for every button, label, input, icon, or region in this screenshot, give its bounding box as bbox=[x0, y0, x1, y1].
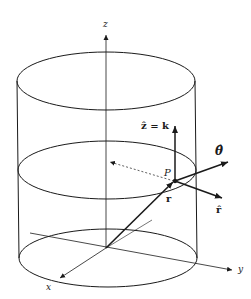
projection-line bbox=[106, 220, 152, 248]
y-axis-label: y bbox=[238, 265, 243, 274]
z-hat-equals-k-label: ẑ = k bbox=[141, 121, 169, 131]
theta-hat-label: θ̂ bbox=[215, 145, 223, 157]
point-p-dot bbox=[173, 179, 177, 183]
theta-hat-vector bbox=[175, 162, 228, 181]
point-p-label: P bbox=[164, 168, 171, 178]
r-hat-label: r̂ bbox=[216, 205, 221, 215]
x-axis bbox=[60, 248, 106, 278]
y-axis bbox=[30, 233, 232, 270]
x-axis-label: x bbox=[46, 283, 51, 292]
z-axis-label: z bbox=[103, 20, 108, 29]
position-vector-r-label: r bbox=[166, 194, 171, 204]
bottom-ellipse bbox=[19, 229, 197, 287]
diagram-canvas bbox=[0, 0, 251, 299]
cylindrical-coordinates-diagram: z x y ẑ = k θ̂ P r r̂ bbox=[0, 0, 251, 299]
r-hat-vector bbox=[175, 181, 222, 198]
position-vector-r bbox=[106, 182, 173, 248]
